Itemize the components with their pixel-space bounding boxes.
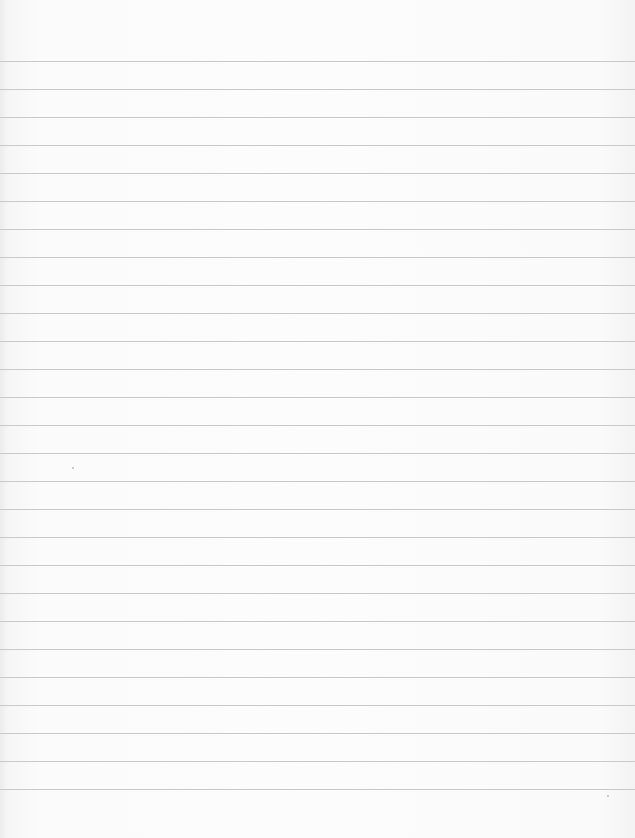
ruled-line	[0, 61, 635, 62]
ruled-line	[0, 649, 635, 650]
ruled-line	[0, 201, 635, 202]
ruled-line	[0, 761, 635, 762]
ruled-line	[0, 453, 635, 454]
ruled-line	[0, 677, 635, 678]
ruled-line	[0, 705, 635, 706]
ruled-line	[0, 313, 635, 314]
lined-paper-page	[0, 0, 635, 838]
ruled-line	[0, 425, 635, 426]
ruled-line	[0, 145, 635, 146]
ruled-line	[0, 229, 635, 230]
ruled-line	[0, 285, 635, 286]
ruled-line	[0, 537, 635, 538]
ruled-line	[0, 509, 635, 510]
ruled-line	[0, 593, 635, 594]
ruled-line	[0, 621, 635, 622]
ruled-line	[0, 257, 635, 258]
paper-speck	[72, 467, 74, 469]
ruled-line	[0, 733, 635, 734]
ruled-line	[0, 89, 635, 90]
ruled-line	[0, 397, 635, 398]
ruled-line	[0, 789, 635, 790]
paper-speck	[607, 795, 609, 797]
ruled-line	[0, 173, 635, 174]
ruled-line	[0, 341, 635, 342]
ruled-line	[0, 117, 635, 118]
ruled-line	[0, 369, 635, 370]
ruled-line	[0, 565, 635, 566]
ruled-line	[0, 481, 635, 482]
